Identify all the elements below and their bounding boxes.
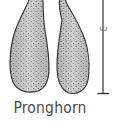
right-hoof-print bbox=[57, 0, 89, 93]
scale-bar bbox=[98, 0, 110, 94]
scale-bar-label: 3 bbox=[94, 26, 108, 36]
left-hoof-print bbox=[10, 0, 49, 92]
track-illustration: 3 Pronghorn bbox=[0, 0, 115, 125]
species-caption: Pronghorn bbox=[4, 99, 97, 117]
hoof-print-drawing bbox=[0, 0, 115, 100]
